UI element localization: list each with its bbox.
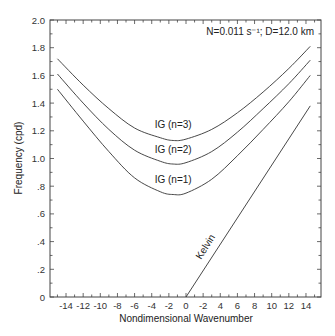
x-tick-label: -2: [165, 300, 173, 311]
x-tick-label: 14: [301, 300, 312, 311]
curve-label: IG (n=3): [155, 119, 192, 130]
y-tick-label: .8: [37, 181, 45, 192]
x-tick-label: 12: [284, 300, 295, 311]
curve-label: Kelvin: [193, 232, 217, 261]
x-tick-label: -6: [130, 300, 138, 311]
x-tick-label: -12: [76, 300, 90, 311]
y-tick-label: 1.6: [32, 70, 45, 81]
y-tick-label: 1.2: [32, 125, 45, 136]
x-tick-label: 10: [266, 300, 277, 311]
plot-frame: [50, 20, 321, 297]
x-axis-ticks: -14-12-10-8-6-4-20-2468101214: [57, 20, 314, 311]
y-tick-label: 1.0: [32, 153, 45, 164]
dispersion-chart: -14-12-10-8-6-4-20-2468101214 0.2.4.6.81…: [0, 0, 335, 336]
x-tick-label: -8: [113, 300, 121, 311]
y-tick-label: 1.8: [32, 42, 45, 53]
y-axis-ticks: 0.2.4.6.81.01.21.41.61.82.0: [32, 15, 321, 303]
x-tick-label: 4: [218, 300, 223, 311]
curve-label: IG (n=1): [155, 174, 192, 185]
parameter-annotation: N=0.011 s⁻¹; D=12.0 km: [206, 26, 314, 37]
x-tick-label: 6: [235, 300, 240, 311]
x-tick-label: -4: [147, 300, 155, 311]
x-tick-label: 8: [252, 300, 257, 311]
y-tick-label: 1.4: [32, 98, 45, 109]
y-tick-label: 2.0: [32, 15, 45, 26]
figure-caption-cutoff: [88, 327, 333, 336]
y-tick-label: 0: [40, 292, 45, 303]
y-tick-label: .6: [37, 208, 45, 219]
x-tick-label: -14: [59, 300, 73, 311]
x-axis-title: Nondimensional Wavenumber: [119, 313, 253, 324]
x-tick-label: -2: [199, 300, 207, 311]
curve-kelvin: [186, 106, 310, 297]
x-tick-label: -10: [93, 300, 107, 311]
x-tick-label: 0: [183, 300, 188, 311]
curves: [57, 46, 310, 297]
y-tick-label: .2: [37, 264, 45, 275]
y-tick-label: .4: [37, 236, 45, 247]
curve-labels: IG (n=3)IG (n=2)IG (n=1)Kelvin: [155, 119, 218, 261]
curve-label: IG (n=2): [155, 144, 192, 155]
y-axis-title: Frequency (cpd): [13, 122, 24, 195]
